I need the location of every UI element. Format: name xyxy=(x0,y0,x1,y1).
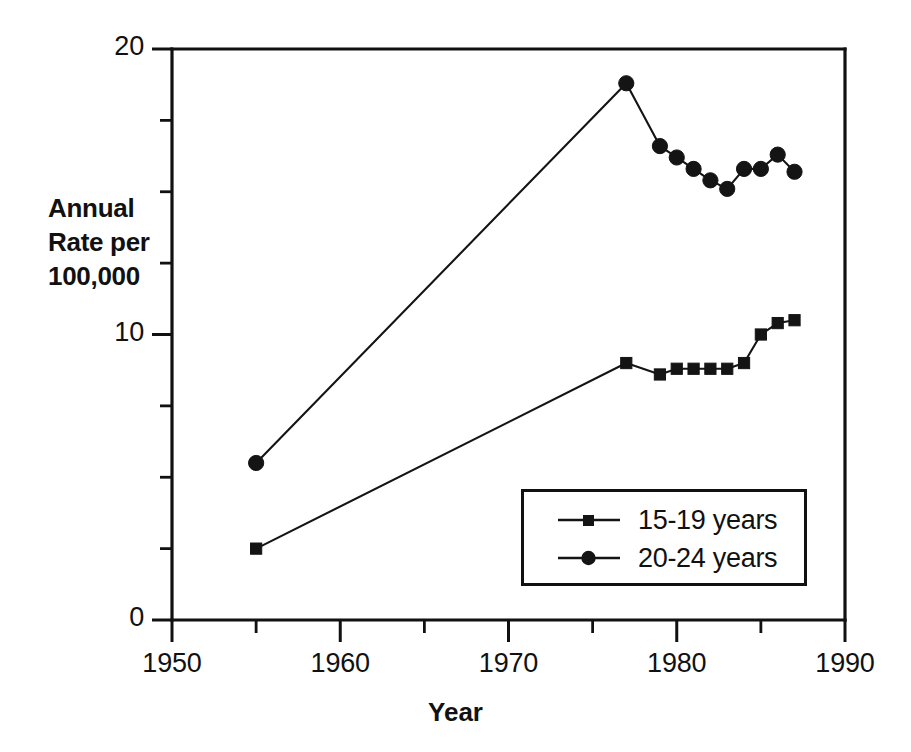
x-axis-title: Year xyxy=(0,697,911,728)
series-group xyxy=(249,76,803,555)
data-point-square xyxy=(789,315,800,326)
plot-area xyxy=(0,0,911,752)
data-point-square xyxy=(772,317,783,328)
data-point-circle xyxy=(720,181,735,196)
data-point-square xyxy=(738,357,749,368)
data-point-square xyxy=(755,329,766,340)
data-point-square xyxy=(251,543,262,554)
x-tick-label: 1960 xyxy=(285,648,395,679)
legend-marker-circle-icon xyxy=(556,545,622,571)
y-axis-title-line: Annual xyxy=(48,192,176,226)
data-point-circle xyxy=(703,173,718,188)
x-tick-label: 1980 xyxy=(622,648,732,679)
data-point-square xyxy=(654,369,665,380)
chart-legend: 15-19 years 20-24 years xyxy=(521,489,807,586)
x-tick-label: 1990 xyxy=(790,648,900,679)
data-point-circle xyxy=(652,138,667,153)
y-axis-title-line: 100,000 xyxy=(48,260,176,294)
series-line-20-24-years xyxy=(256,83,794,463)
data-point-circle xyxy=(736,161,751,176)
data-point-circle xyxy=(619,76,634,91)
data-point-square xyxy=(705,363,716,374)
data-point-circle xyxy=(770,147,785,162)
chart-figure: 01020 19501960197019801990 AnnualRate pe… xyxy=(0,0,911,752)
legend-entry-15-19: 15-19 years xyxy=(524,500,804,540)
legend-marker-square-icon xyxy=(556,507,622,533)
y-tick-label: 0 xyxy=(74,602,144,633)
data-point-square xyxy=(671,363,682,374)
data-point-circle xyxy=(686,161,701,176)
x-tick-label: 1970 xyxy=(454,648,564,679)
y-axis-title-line: Rate per xyxy=(48,226,176,260)
data-point-circle xyxy=(787,164,802,179)
legend-entry-20-24: 20-24 years xyxy=(524,538,804,578)
data-point-circle xyxy=(753,161,768,176)
y-axis-title: AnnualRate per100,000 xyxy=(48,192,176,293)
data-point-circle xyxy=(669,150,684,165)
y-tick-label: 10 xyxy=(74,317,144,348)
y-tick-label: 20 xyxy=(74,31,144,62)
data-point-square xyxy=(722,363,733,374)
legend-label-20-24: 20-24 years xyxy=(638,543,777,574)
data-point-square xyxy=(621,357,632,368)
data-point-circle xyxy=(249,455,264,470)
legend-label-15-19: 15-19 years xyxy=(638,505,777,536)
x-tick-label: 1950 xyxy=(117,648,227,679)
data-point-square xyxy=(688,363,699,374)
